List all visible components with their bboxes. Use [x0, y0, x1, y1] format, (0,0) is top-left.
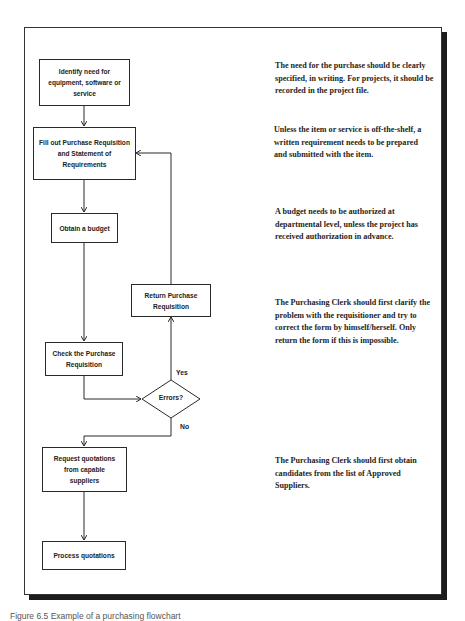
note-obtain-budget: A budget needs to be authorized at depar…	[275, 206, 431, 244]
decision-no-label: No	[180, 423, 189, 430]
step-return-requisition: Return Purchase Requisition	[131, 284, 211, 317]
step-label: Check the Purchase Requisition	[48, 348, 120, 370]
step-label: Identify need for equipment, software or…	[42, 66, 127, 99]
arrow-no-to-request	[84, 418, 171, 446]
note-request-quotations: The Purchasing Clerk should first obtain…	[275, 455, 425, 493]
note-check-requisition: The Purchasing Clerk should first clarif…	[275, 297, 435, 347]
decision-yes-label: Yes	[176, 369, 188, 376]
step-label: Fill out Purchase Requisition and Statem…	[36, 137, 133, 170]
note-identify-need: The need for the purchase should be clea…	[275, 60, 435, 98]
step-process-quotations: Process quotations	[42, 541, 126, 570]
arrow-return-to-fillout	[136, 153, 171, 284]
step-label: Process quotations	[53, 550, 114, 561]
step-label: Obtain a budget	[59, 223, 109, 234]
step-request-quotations: Request quotations from capable supplier…	[42, 447, 127, 492]
decision-label: Errors?	[142, 394, 200, 401]
step-label: Request quotations from capable supplier…	[53, 453, 116, 486]
step-identify-need: Identify need for equipment, software or…	[39, 59, 130, 106]
note-fill-out-requisition: Unless the item or service is off-the-sh…	[274, 124, 426, 162]
arrow-check-to-decision	[84, 375, 141, 399]
step-label: Return Purchase Requisition	[140, 290, 202, 312]
figure-caption: Figure 6.5 Example of a purchasing flowc…	[10, 611, 181, 621]
step-obtain-budget: Obtain a budget	[51, 213, 118, 243]
step-fill-out-requisition: Fill out Purchase Requisition and Statem…	[33, 127, 136, 180]
step-check-requisition: Check the Purchase Requisition	[45, 342, 123, 376]
